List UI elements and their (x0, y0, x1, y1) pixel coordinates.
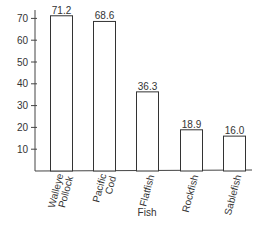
x-tick-label: WalleyePollock (46, 171, 76, 211)
x-tick-label: PacificCod (90, 172, 118, 206)
x-tick-label: Flatfish (137, 174, 156, 208)
bar-value-label: 36.3 (138, 81, 158, 92)
bar (224, 136, 246, 171)
x-tick-label: Rockfish (180, 174, 201, 214)
bar-chart: 10203040506070 71.2WalleyePollock68.6Pac… (0, 0, 254, 228)
bar (137, 92, 159, 171)
y-tick-label: 50 (17, 57, 29, 68)
bar-group: 36.3Flatfish (137, 81, 159, 208)
svg-text:Flatfish: Flatfish (137, 174, 156, 208)
bar (181, 130, 203, 171)
bar-group: 16.0Sablefish (222, 125, 245, 216)
bar-value-label: 16.0 (225, 125, 245, 136)
y-tick-label: 70 (17, 13, 29, 24)
y-tick-label: 30 (17, 100, 29, 111)
y-tick-label: 10 (17, 144, 29, 155)
bar-value-label: 71.2 (52, 5, 72, 16)
svg-text:Rockfish: Rockfish (180, 174, 201, 214)
bar-group: 68.6PacificCod (90, 10, 118, 206)
x-axis-label: Fish (138, 207, 157, 218)
bar (51, 16, 73, 171)
y-tick-label: 40 (17, 78, 29, 89)
bars: 71.2WalleyePollock68.6PacificCod36.3Flat… (46, 5, 246, 216)
bar-group: 71.2WalleyePollock (46, 5, 76, 212)
x-tick-label: Sablefish (222, 174, 243, 217)
y-tick-label: 60 (17, 35, 29, 46)
svg-text:Sablefish: Sablefish (222, 174, 243, 217)
bar-group: 18.9Rockfish (180, 119, 203, 214)
y-tick-label: 20 (17, 122, 29, 133)
bar (94, 21, 116, 171)
bar-value-label: 68.6 (95, 10, 115, 21)
bar-value-label: 18.9 (182, 119, 202, 130)
